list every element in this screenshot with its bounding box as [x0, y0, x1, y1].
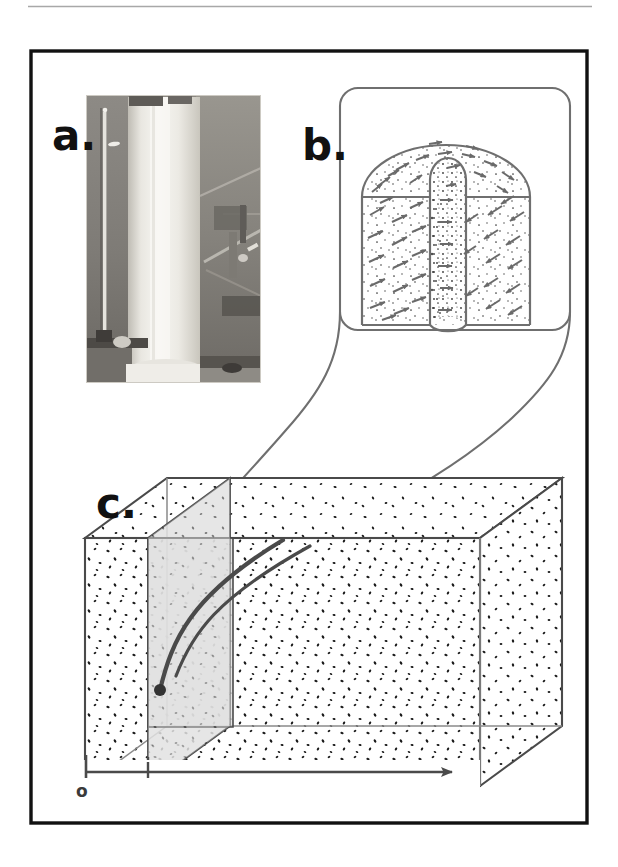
panel-b-label: b.: [302, 121, 348, 170]
figure-canvas: a.: [0, 0, 618, 867]
plume-source-point: [154, 684, 166, 696]
panel-c-label: c.: [96, 479, 137, 528]
panel-a-photograph: [86, 95, 261, 385]
panel-c-diagram: [85, 478, 562, 786]
figure-container: a.: [0, 0, 618, 867]
axis-group-positioned: o: [60, 760, 480, 806]
box-top-face: [85, 478, 562, 538]
axis-origin-label: o: [76, 781, 88, 801]
box-front-face: [85, 538, 480, 786]
panel-b-diagram: [340, 88, 570, 331]
panel-a-label: a.: [52, 111, 96, 160]
